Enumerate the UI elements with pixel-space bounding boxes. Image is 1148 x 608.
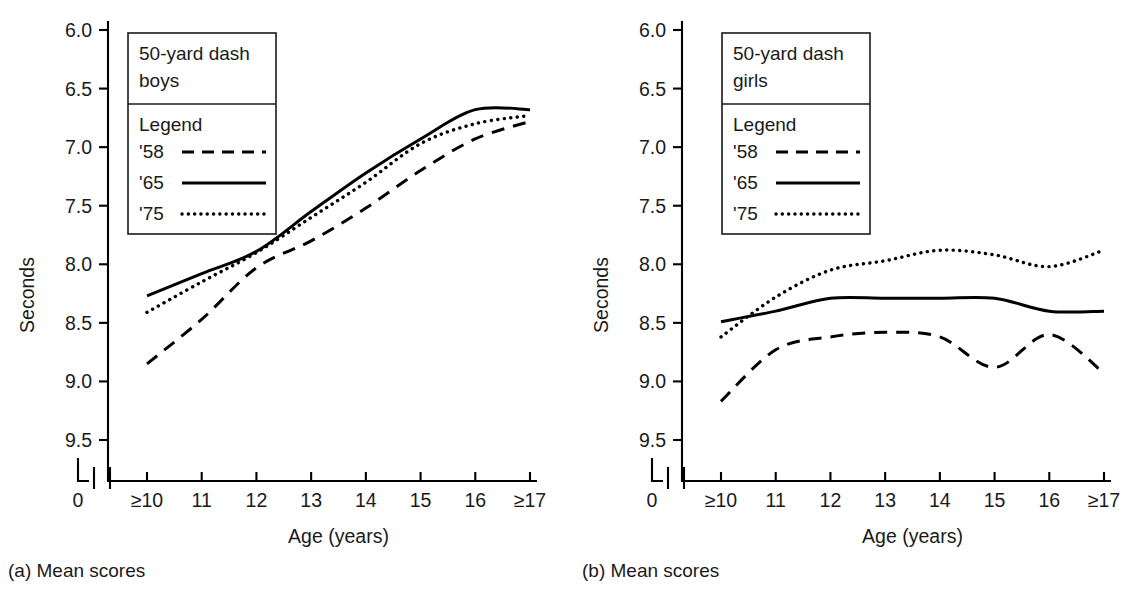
legend-entry-label-58: '58 <box>139 141 164 162</box>
y-axis-tick-label: 8.0 <box>639 253 666 275</box>
legend-heading: Legend <box>139 114 202 135</box>
y-axis-tick-label: 6.0 <box>65 19 92 41</box>
y-axis-tick-label: 7.0 <box>639 136 666 158</box>
legend-title-line1: 50-yard dash <box>733 43 844 64</box>
chart-b-svg: 06.06.57.07.58.08.59.09.5≥10111213141516… <box>574 0 1148 560</box>
x-axis-tick-label: 11 <box>192 489 212 511</box>
y-axis-tick-label: 6.5 <box>639 78 666 100</box>
y-axis-tick-label: 8.5 <box>639 312 666 334</box>
y-axis-title: Seconds <box>590 257 612 333</box>
chart-a-svg: 06.06.57.07.58.08.59.09.5≥10111213141516… <box>0 0 574 560</box>
x-axis-title: Age (years) <box>862 525 963 547</box>
y-axis-tick-label: 6.0 <box>639 19 666 41</box>
x-axis-tick-label: 16 <box>464 489 486 511</box>
y-axis-tick-label: 9.0 <box>65 370 92 392</box>
legend-entry-label-75: '75 <box>139 203 164 224</box>
y-axis-tick-label: 8.5 <box>65 312 92 334</box>
x-axis-title: Age (years) <box>288 525 389 547</box>
legend-entry-label-65: '65 <box>733 172 758 193</box>
x-axis-tick-label: ≥10 <box>705 489 738 511</box>
caption-b: (b) Mean scores <box>574 560 1148 582</box>
x-axis-origin-label: 0 <box>647 489 658 511</box>
x-axis-tick-label: ≥17 <box>514 489 546 511</box>
y-axis-tick-label: 7.5 <box>65 195 92 217</box>
x-axis-tick-label: 15 <box>984 489 1006 511</box>
y-axis-tick-label: 6.5 <box>65 78 92 100</box>
y-axis-tick-label: 9.5 <box>65 429 92 451</box>
origin-stub <box>78 459 88 481</box>
legend-title-line2: boys <box>139 70 179 91</box>
x-axis-origin-label: 0 <box>73 489 84 511</box>
x-axis-tick-label: 11 <box>766 489 786 511</box>
y-axis-title: Seconds <box>16 257 38 333</box>
x-axis-tick-label: ≥10 <box>131 489 164 511</box>
y-axis-tick-label: 7.5 <box>639 195 666 217</box>
x-axis-tick-label: 14 <box>355 489 377 511</box>
legend-title-line2: girls <box>733 70 768 91</box>
x-axis-tick-label: 12 <box>820 489 842 511</box>
legend-title-line1: 50-yard dash <box>139 43 250 64</box>
x-axis-tick-label: 13 <box>300 489 322 511</box>
y-axis-tick-label: 9.0 <box>639 370 666 392</box>
legend-entry-label-58: '58 <box>733 141 758 162</box>
panel-b-girls: 06.06.57.07.58.08.59.09.5≥10111213141516… <box>574 0 1148 608</box>
x-axis-tick-label: 12 <box>246 489 268 511</box>
y-axis-tick-label: 7.0 <box>65 136 92 158</box>
legend-heading: Legend <box>733 114 796 135</box>
x-axis-tick-label: 14 <box>929 489 951 511</box>
caption-a: (a) Mean scores <box>0 560 582 582</box>
y-axis-tick-label: 8.0 <box>65 253 92 275</box>
x-axis-tick-label: ≥17 <box>1088 489 1120 511</box>
data-series-58 <box>721 332 1104 401</box>
data-series-75 <box>721 250 1104 337</box>
origin-stub <box>652 459 662 481</box>
legend-entry-label-65: '65 <box>139 172 164 193</box>
x-axis-tick-label: 13 <box>874 489 896 511</box>
x-axis-tick-label: 15 <box>410 489 432 511</box>
x-axis-tick-label: 16 <box>1038 489 1060 511</box>
figure-two-line-charts: 06.06.57.07.58.08.59.09.5≥10111213141516… <box>0 0 1148 608</box>
panel-a-boys: 06.06.57.07.58.08.59.09.5≥10111213141516… <box>0 0 574 608</box>
legend-entry-label-75: '75 <box>733 203 758 224</box>
data-series-65 <box>721 297 1104 321</box>
y-axis-tick-label: 9.5 <box>639 429 666 451</box>
